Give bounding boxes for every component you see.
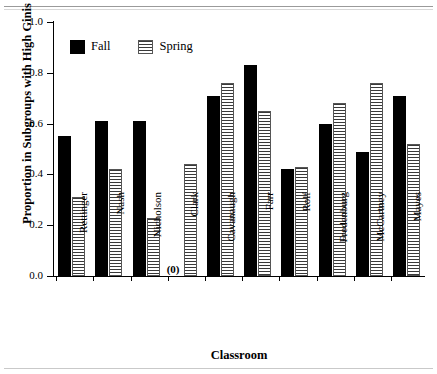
- x-axis-tick-label-text: Mayes: [411, 192, 423, 221]
- x-axis-tick: [391, 276, 392, 281]
- y-axis-tick-label: 1.0: [17, 16, 43, 27]
- y-axis-tick: [47, 276, 54, 277]
- page-top-rule-secondary: [4, 9, 433, 10]
- y-axis-tick-label: 0.8: [17, 67, 43, 78]
- x-axis-tick-label-text: Nicholson: [151, 192, 163, 237]
- y-axis-tick-label: 0.0: [17, 270, 43, 281]
- x-axis-tick-label-text: Cavanaugh: [225, 192, 237, 241]
- bar-fall-cavanaugh: [207, 96, 220, 276]
- x-axis-tick-label-cavanaugh: Cavanaugh: [225, 192, 237, 282]
- bar-fall-rettinger: [58, 136, 71, 276]
- x-axis-tick: [93, 276, 94, 281]
- x-axis-tick-label-text: Rettinger: [77, 192, 89, 233]
- x-axis-tick: [317, 276, 318, 281]
- bar-fall-nicholson: [133, 121, 146, 276]
- page-top-rule: [4, 6, 433, 7]
- x-axis-tick-label-text: McCartney: [374, 192, 386, 241]
- x-axis-tick: [131, 276, 132, 281]
- x-axis-tick-label-rolf: Rolf: [300, 192, 312, 282]
- x-axis-tick: [205, 276, 206, 281]
- plot-area: (0): [53, 22, 425, 276]
- zero-value-annotation: (0): [167, 263, 180, 275]
- x-axis-tick: [242, 276, 243, 281]
- x-axis-tick-label-mayes: Mayes: [411, 192, 423, 282]
- chart-page: Proportion in Subgroups with High Ginis …: [0, 0, 437, 374]
- y-axis-tick-label: 0.4: [17, 168, 43, 179]
- x-axis-tick-label-rettinger: Rettinger: [77, 192, 89, 282]
- x-axis-tick-label-text: Clark: [188, 192, 200, 216]
- x-axis-tick-label-fredenburg: Fredenburg: [337, 192, 349, 282]
- x-axis-tick-label-text: Rolf: [300, 192, 312, 212]
- bar-fall-rolf: [281, 169, 294, 276]
- x-axis-tick: [168, 276, 169, 281]
- x-axis-tick: [354, 276, 355, 281]
- x-axis-tick: [279, 276, 280, 281]
- x-axis-tick-label-text: Nash: [114, 192, 126, 215]
- y-axis-tick-label: 0.6: [17, 118, 43, 129]
- x-axis-tick-label-text: Fredenburg: [337, 192, 349, 243]
- bar-fall-farr: [244, 65, 257, 276]
- bar-fall-mccartney: [356, 152, 369, 276]
- x-axis-tick: [56, 276, 57, 281]
- bar-fall-mayes: [393, 96, 406, 276]
- x-axis-tick-label-text: Farr: [263, 192, 275, 210]
- x-axis-line: [53, 276, 425, 277]
- y-axis-tick-label: 0.2: [17, 219, 43, 230]
- bar-fall-fredenburg: [319, 124, 332, 276]
- x-axis-tick-label-nicholson: Nicholson: [151, 192, 163, 282]
- x-axis-title: Classroom: [53, 348, 425, 363]
- x-axis-tick-label-nash: Nash: [114, 192, 126, 282]
- x-axis-tick-label-farr: Farr: [263, 192, 275, 282]
- page-bottom-rule: [4, 368, 433, 369]
- x-axis-tick-label-clark: Clark: [188, 192, 200, 282]
- x-axis-tick-label-mccartney: McCartney: [374, 192, 386, 282]
- bar-fall-nash: [95, 121, 108, 276]
- y-axis-title: Proportion in Subgroups with High Ginis: [20, 0, 35, 229]
